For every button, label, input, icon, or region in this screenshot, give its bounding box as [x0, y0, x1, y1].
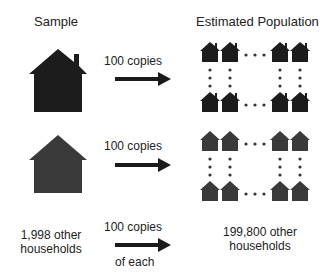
arrow-sublabel-row3: of each	[115, 255, 154, 269]
arrow-right-icon	[115, 243, 159, 247]
sample-households-text: households	[12, 242, 90, 256]
arrow-label-row1: 100 copies	[104, 54, 162, 68]
other-households-sample: 1,998 other households	[12, 228, 90, 256]
population-grid-chimney	[200, 42, 320, 122]
population-count-text: 199,800 other	[210, 225, 310, 239]
arrow-right-icon	[115, 77, 159, 81]
sample-house-chimney-icon	[28, 49, 88, 112]
population-households-text: households	[210, 239, 310, 253]
population-grid-plain	[200, 131, 320, 211]
sample-count-text: 1,998 other	[12, 228, 90, 242]
arrow-label-row3: 100 copies	[104, 220, 162, 234]
sample-header: Sample	[34, 14, 78, 29]
arrow-label-row2: 100 copies	[104, 139, 162, 153]
arrow-right-icon	[115, 163, 159, 167]
other-households-population: 199,800 other households	[210, 225, 310, 253]
estimated-population-header: Estimated Population	[196, 14, 319, 29]
sample-house-plain-icon	[28, 135, 88, 193]
